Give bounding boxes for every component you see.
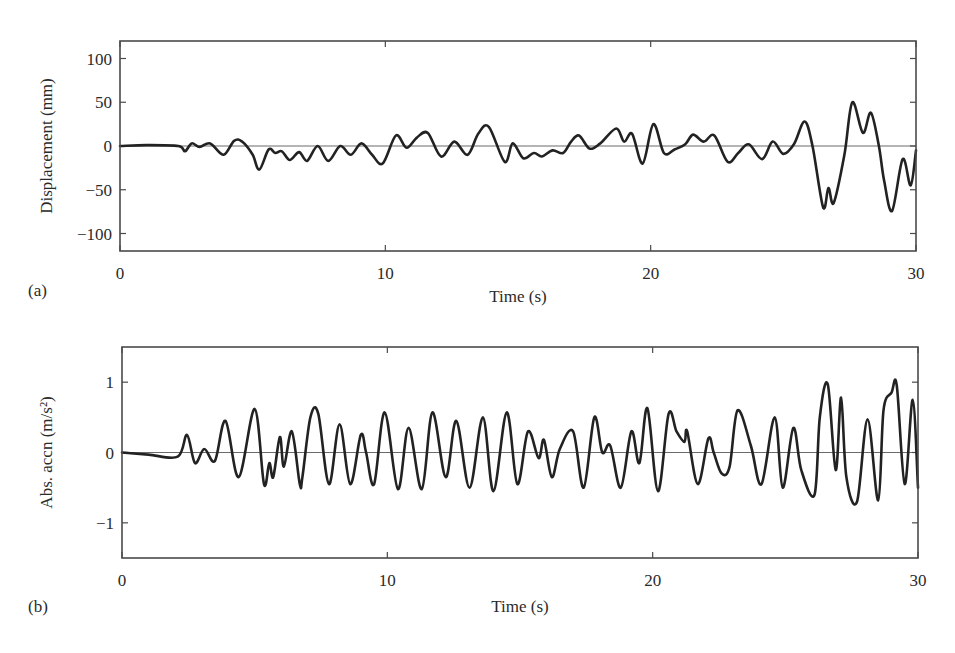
x-tick-label: 10 [379,571,396,590]
x-tick-label: 10 [377,264,394,283]
x-tick-label: 20 [642,264,659,283]
y-tick-label: 100 [87,50,113,69]
x-axis-label: Time (s) [491,597,548,616]
acceleration-panel: 10−10102030Time (s)Abs. accn (m/s²)(b) [28,347,927,616]
y-tick-label: 50 [95,93,112,112]
x-tick-label: 30 [908,264,925,283]
displacement-panel: 100500−50−1000102030Time (s)Displacement… [28,41,925,306]
y-tick-label: 0 [104,137,113,156]
y-tick-label: −1 [96,514,114,533]
y-tick-label: −100 [77,225,112,244]
x-tick-label: 30 [910,571,927,590]
figure: 100500−50−1000102030Time (s)Displacement… [0,0,955,653]
x-tick-label: 0 [116,264,125,283]
panel-tag: (a) [28,281,47,300]
y-axis-label: Abs. accn (m/s²) [37,396,56,508]
y-tick-label: 0 [106,444,115,463]
y-tick-label: 1 [106,373,115,392]
data-curve [120,102,916,211]
x-axis-label: Time (s) [489,287,546,306]
data-curve [122,380,918,505]
y-axis-label: Displacement (mm) [37,78,56,214]
x-tick-label: 0 [118,571,127,590]
y-tick-label: −50 [85,181,112,200]
panel-tag: (b) [28,597,48,616]
x-tick-label: 20 [644,571,661,590]
